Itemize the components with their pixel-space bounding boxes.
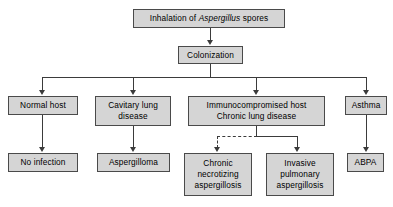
arrowhead-cavitary xyxy=(130,90,136,95)
edge-immunocompromised-left-branch-dashed xyxy=(217,136,257,137)
node-abpa-label: ABPA xyxy=(355,157,377,168)
edge-immunocompromised-right-branch xyxy=(256,136,297,137)
node-invasive-pulmonary-label: Invasive pulmonary aspergillosis xyxy=(277,158,324,191)
node-aspergilloma: Aspergilloma xyxy=(97,153,170,172)
arrowhead-aspergilloma xyxy=(130,147,136,152)
edge-normal-host-no-infection xyxy=(42,115,43,148)
inhalation-italic: Aspergillus xyxy=(199,13,241,23)
node-cavitary-lung-disease: Cavitary lung disease xyxy=(95,96,171,126)
node-abpa: ABPA xyxy=(347,153,384,172)
arrowhead-asthma xyxy=(363,90,369,95)
node-colonization-label: Colonization xyxy=(187,50,234,61)
node-inhalation-label: Inhalation of Aspergillus spores xyxy=(150,13,269,24)
node-asthma-label: Asthma xyxy=(352,100,381,111)
node-normal-host-label: Normal host xyxy=(20,100,66,111)
flowchart-canvas: Inhalation of Aspergillus spores Coloniz… xyxy=(0,0,393,207)
node-immunocompromised-host-label: Immunocompromised host Chronic lung dise… xyxy=(207,100,307,122)
edge-bus-to-normal-host xyxy=(42,77,43,91)
inhalation-suffix: spores xyxy=(240,13,268,23)
node-chronic-necrotizing-label: Chronic necrotizing aspergillosis xyxy=(195,158,242,191)
node-inhalation: Inhalation of Aspergillus spores xyxy=(133,9,285,28)
edge-cavitary-aspergilloma xyxy=(133,126,134,148)
arrowhead-invasive-pulmonary xyxy=(294,147,300,152)
arrowhead-abpa xyxy=(363,147,369,152)
edge-distribution-bus xyxy=(42,77,367,78)
arrowhead-no-infection xyxy=(39,147,45,152)
edge-bus-to-asthma xyxy=(366,77,367,91)
node-cavitary-lung-disease-label: Cavitary lung disease xyxy=(108,100,158,122)
arrowhead-immunocompromised xyxy=(253,90,259,95)
node-invasive-pulmonary-aspergillosis: Invasive pulmonary aspergillosis xyxy=(266,153,334,196)
edge-colonization-stem xyxy=(210,64,211,77)
arrowhead-colonization xyxy=(207,40,213,45)
node-normal-host: Normal host xyxy=(8,96,78,115)
node-asthma: Asthma xyxy=(345,96,387,115)
edge-asthma-abpa xyxy=(366,115,367,148)
arrowhead-normal-host xyxy=(39,90,45,95)
node-immunocompromised-host: Immunocompromised host Chronic lung dise… xyxy=(188,96,325,126)
node-no-infection: No infection xyxy=(8,153,78,172)
node-colonization: Colonization xyxy=(178,46,243,64)
node-no-infection-label: No infection xyxy=(20,157,65,168)
arrowhead-chronic-necrotizing xyxy=(214,147,220,152)
node-chronic-necrotizing-aspergillosis: Chronic necrotizing aspergillosis xyxy=(184,153,252,196)
inhalation-prefix: Inhalation of xyxy=(150,13,199,23)
edge-bus-to-cavitary xyxy=(133,77,134,91)
node-aspergilloma-label: Aspergilloma xyxy=(109,157,158,168)
edge-bus-to-immunocompromised xyxy=(256,77,257,91)
